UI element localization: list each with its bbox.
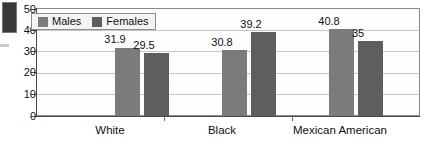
y-tick-label-30: 30 bbox=[10, 46, 36, 57]
x-axis-line bbox=[36, 116, 420, 117]
y-tick-label-0: 0 bbox=[10, 111, 36, 122]
bar-black-males bbox=[222, 50, 247, 116]
bar-white-females bbox=[144, 53, 169, 116]
data-label-black-females: 39.2 bbox=[232, 19, 270, 30]
x-axis-tick-2 bbox=[292, 117, 293, 121]
x-category-label-mexican-american: Mexican American bbox=[280, 124, 400, 137]
legend-label-males: Males bbox=[52, 16, 81, 27]
legend-swatch-males-icon bbox=[38, 17, 48, 27]
data-label-black-males: 30.8 bbox=[203, 37, 241, 48]
data-label-mexican-american-males: 40.8 bbox=[310, 16, 348, 27]
bar-chart: 50 40 30 20 10 0 31.9 29.5 30.8 39.2 40.… bbox=[0, 0, 442, 148]
chart-legend: Males Females bbox=[31, 13, 156, 30]
legend-swatch-females-icon bbox=[92, 17, 102, 27]
x-category-label-white: White bbox=[62, 124, 158, 137]
bar-black-females bbox=[251, 32, 276, 116]
legend-entry-females: Females bbox=[92, 16, 148, 27]
x-axis-tick-1 bbox=[164, 117, 165, 121]
bar-mexican-american-males bbox=[329, 29, 354, 116]
bar-mexican-american-females bbox=[358, 41, 383, 116]
y-tick-label-10: 10 bbox=[10, 89, 36, 100]
y-tick-label-20: 20 bbox=[10, 67, 36, 78]
data-label-mexican-american-females: 35 bbox=[339, 28, 377, 39]
data-label-white-females: 29.5 bbox=[125, 40, 163, 51]
legend-label-females: Females bbox=[106, 16, 148, 27]
bar-white-males bbox=[115, 48, 140, 116]
legend-entry-males: Males bbox=[38, 16, 81, 27]
x-category-label-black: Black bbox=[174, 124, 270, 137]
